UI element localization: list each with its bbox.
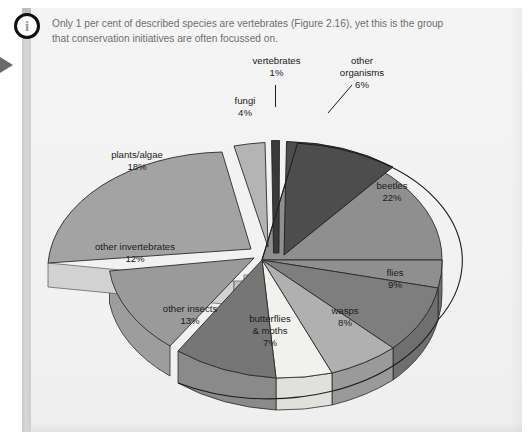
pie-label-other-invertebrates: other invertebrates 12% — [50, 241, 220, 265]
pie-label-plants-algae-pct: 18% — [77, 161, 197, 173]
triangle-right-icon — [0, 57, 13, 73]
pie-label-plants-algae-name: plants/algae — [77, 149, 197, 161]
pie-label-fungi: fungi 4% — [212, 95, 278, 119]
pie-label-other-invertebrates-pct: 12% — [50, 253, 220, 265]
pie-label-butterflies-moths-line2: & moths — [222, 325, 318, 337]
pie-label-flies-name: flies — [362, 267, 428, 279]
pie-label-other-organisms: other organisms 6% — [317, 55, 407, 91]
pie-label-other-organisms-line1: other — [317, 55, 407, 67]
info-circle-icon: i — [14, 13, 40, 39]
pie-label-flies-pct: 9% — [362, 279, 428, 291]
pie-label-vertebrates-name: vertebrates — [229, 55, 324, 67]
pie-label-vertebrates: vertebrates 1% — [229, 55, 324, 79]
pie-label-other-organisms-pct: 6% — [317, 79, 407, 91]
pie-label-fungi-name: fungi — [212, 95, 278, 107]
pie-label-flies: flies 9% — [362, 267, 428, 291]
pie-label-butterflies-moths-pct: 7% — [222, 337, 318, 349]
pie-label-butterflies-moths: butterflies & moths 7% — [222, 313, 318, 349]
pie-label-beetles-pct: 22% — [352, 192, 432, 204]
pie-label-wasps-name: wasps — [310, 305, 380, 317]
pie-label-other-invertebrates-name: other invertebrates — [50, 241, 220, 253]
pie-label-other-organisms-line2: organisms — [317, 67, 407, 79]
pie-label-butterflies-moths-line1: butterflies — [222, 313, 318, 325]
callout-text: Only 1 per cent of described species are… — [52, 16, 452, 46]
pie-label-beetles: beetles 22% — [352, 180, 432, 204]
pie-label-wasps: wasps 8% — [310, 305, 380, 329]
pie-label-plants-algae: plants/algae 18% — [77, 149, 197, 173]
pie-label-vertebrates-pct: 1% — [229, 67, 324, 79]
info-icon-glyph: i — [25, 19, 29, 34]
pie-label-wasps-pct: 8% — [310, 317, 380, 329]
pie-label-beetles-name: beetles — [352, 180, 432, 192]
pie-chart: vertebrates 1% other organisms 6% fungi … — [22, 55, 522, 432]
pie-label-fungi-pct: 4% — [212, 107, 278, 119]
page-root: i Only 1 per cent of described species a… — [0, 0, 531, 444]
